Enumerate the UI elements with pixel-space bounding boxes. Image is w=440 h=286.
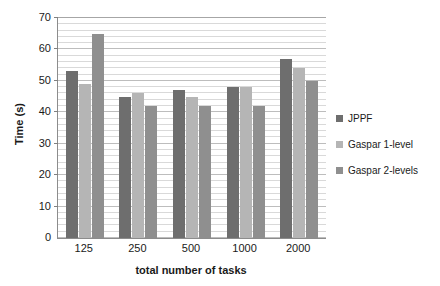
y-axis-tick-label: 40: [25, 106, 51, 117]
bar-group: [272, 18, 326, 238]
x-axis-tick-label: 2000: [271, 243, 325, 254]
bar: [306, 81, 318, 238]
bar-group: [165, 18, 219, 238]
legend-swatch-icon: [336, 167, 343, 174]
bar-group: [58, 18, 112, 238]
y-axis-title: Time (s): [13, 74, 25, 174]
x-axis-tick-label: 500: [164, 243, 218, 254]
bar-group: [219, 18, 273, 238]
bar: [132, 93, 144, 238]
x-axis-tick-label: 250: [111, 243, 165, 254]
y-axis-tick-label: 10: [25, 201, 51, 212]
bar: [227, 87, 239, 238]
y-axis-tick-label: 60: [25, 43, 51, 54]
bar: [79, 84, 91, 238]
bar: [173, 90, 185, 238]
x-axis-tick-label: 125: [57, 243, 111, 254]
bar: [253, 106, 265, 238]
y-axis-tick-label: 70: [25, 12, 51, 23]
bar: [293, 68, 305, 238]
y-axis-tick-label: 20: [25, 169, 51, 180]
legend-item: Gaspar 2-levels: [336, 157, 440, 183]
bars-layer: [58, 18, 326, 238]
bar: [240, 87, 252, 238]
y-axis-tick-labels: 010203040506070: [25, 0, 51, 286]
y-axis-tick-label: 0: [25, 232, 51, 243]
bar: [145, 106, 157, 238]
bar: [92, 34, 104, 238]
legend-label: Gaspar 2-levels: [348, 165, 418, 176]
y-axis-tick-label: 50: [25, 75, 51, 86]
legend-item: JPPF: [336, 105, 440, 131]
legend-item: Gaspar 1-level: [336, 131, 440, 157]
bar: [280, 59, 292, 238]
bar-chart: Time (s) 010203040506070 125250500100020…: [0, 0, 440, 286]
bar-group: [112, 18, 166, 238]
legend-swatch-icon: [336, 115, 343, 122]
x-axis-tick-label: 1000: [218, 243, 272, 254]
bar: [66, 71, 78, 238]
legend-label: Gaspar 1-level: [348, 139, 413, 150]
bar: [119, 97, 131, 238]
bar: [186, 97, 198, 238]
chart-legend: JPPFGaspar 1-levelGaspar 2-levels: [336, 105, 440, 183]
x-axis-title: total number of tasks: [57, 264, 325, 276]
legend-swatch-icon: [336, 141, 343, 148]
y-axis-tick-label: 30: [25, 138, 51, 149]
bar: [199, 106, 211, 238]
x-axis-tick-labels: 12525050010002000: [57, 243, 325, 259]
plot-area: [57, 18, 326, 239]
legend-label: JPPF: [348, 113, 372, 124]
